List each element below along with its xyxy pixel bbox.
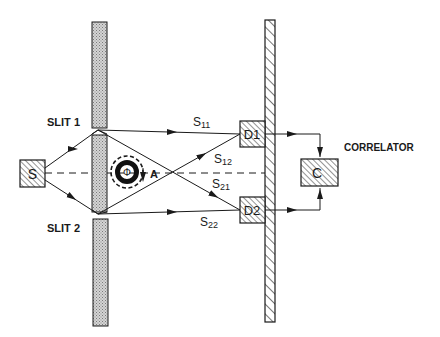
slit-screen [92,22,108,326]
source-label: S [28,166,37,182]
path-label-s21: S21 [212,177,230,192]
correlator-box-label: C [312,165,322,181]
slit1-label: SLIT 1 [47,116,80,128]
correlator: C CORRELATOR [301,142,414,186]
slit2-label: SLIT 2 [47,222,80,234]
detector-d2-label: D2 [244,203,261,218]
detector-d2: D2 [240,197,265,223]
path-s22 [98,210,240,214]
slit-screen-top [92,22,107,128]
detector-wall [265,20,275,322]
flux-label: Φ [123,167,131,178]
detector-d1-label: D1 [244,127,261,142]
path-label-s12: S12 [214,152,232,167]
vector-potential-label: A [150,168,158,180]
detector-d1: D1 [240,121,265,147]
source: S [20,160,45,187]
diagram-canvas: S Φ A D1 D2 C CORRELATOR [0,0,440,337]
slit-screen-middle [92,135,107,212]
path-s11 [98,130,240,134]
path-label-s11: S11 [193,115,210,130]
slit-screen-bottom [93,219,108,326]
correlator-label: CORRELATOR [344,142,414,153]
flux-solenoid: Φ A [111,156,158,188]
path-label-s22: S22 [200,215,218,230]
